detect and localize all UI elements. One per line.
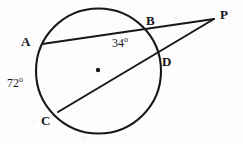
point-label-c: C — [41, 114, 50, 127]
secant-line-abp — [42, 19, 214, 44]
figure-canvas — [0, 0, 243, 144]
center-dot — [96, 68, 100, 72]
point-label-a: A — [21, 35, 30, 48]
point-label-d: D — [162, 55, 171, 68]
geometry-figure: A B C D P 34o 72o — [0, 0, 243, 144]
point-label-b: B — [146, 14, 155, 27]
angle-label-72: 72o — [7, 76, 23, 89]
point-label-p: P — [220, 8, 228, 21]
degree-symbol-icon: o — [124, 35, 128, 44]
angle-label-34: 34o — [112, 36, 128, 49]
secant-line-cdp — [58, 19, 214, 112]
angle-34-value: 34 — [112, 36, 124, 50]
angle-72-value: 72 — [7, 76, 19, 90]
degree-symbol-icon: o — [19, 75, 23, 84]
